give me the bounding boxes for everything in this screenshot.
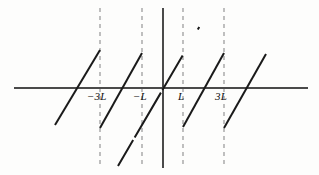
tick-label-3L: 3L xyxy=(215,90,227,102)
tick-label-minus-L: −L xyxy=(133,90,147,102)
waveform-segment xyxy=(224,54,266,128)
waveform-segment xyxy=(118,7,211,166)
sawtooth-figure: −3L−LL3L xyxy=(0,0,319,175)
axis-group xyxy=(14,8,308,168)
tick-label-minus-3L: −3L xyxy=(87,90,107,102)
plot-canvas xyxy=(0,0,319,175)
tick-label-L: L xyxy=(178,90,184,102)
waveform-curve-group xyxy=(55,7,266,166)
